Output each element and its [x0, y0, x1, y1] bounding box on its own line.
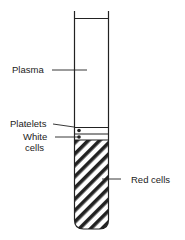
platelets-label: Platelets	[10, 118, 46, 129]
platelets-dot	[77, 129, 81, 133]
white-cells-dot	[77, 135, 81, 139]
platelets-leader-line	[53, 124, 74, 127]
white-cells-label-line1: White	[23, 131, 47, 142]
plasma-label: Plasma	[12, 64, 44, 75]
white-cells-label-line2: cells	[25, 142, 44, 153]
red-cells-label: Red cells	[131, 174, 170, 185]
